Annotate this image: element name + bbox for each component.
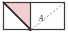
label-a: A	[38, 14, 44, 23]
diagram-figure: A	[0, 0, 68, 35]
diagonal-vertex-marker	[29, 28, 32, 31]
diagram-canvas: A	[0, 0, 68, 35]
